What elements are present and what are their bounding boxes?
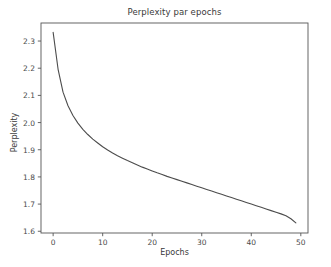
y-axis-ticks	[38, 41, 41, 231]
y-axis-label: Perplexity	[10, 103, 19, 163]
y-tick-label: 1.7	[0, 200, 35, 209]
x-tick-label: 20	[147, 238, 157, 247]
y-tick-label: 1.8	[0, 172, 35, 181]
x-tick-label: 30	[197, 238, 207, 247]
plot-background	[41, 23, 308, 233]
x-axis-ticks	[53, 233, 301, 236]
y-tick-label: 1.6	[0, 227, 35, 236]
x-axis-label: Epochs	[41, 248, 308, 257]
chart-figure: Perplexity par epochs 1.61.71.81.92.02.1…	[0, 0, 331, 267]
x-tick-label: 50	[296, 238, 306, 247]
x-tick-label: 10	[98, 238, 108, 247]
y-tick-label: 2.2	[0, 64, 35, 73]
y-tick-label: 2.3	[0, 37, 35, 46]
x-tick-label: 40	[246, 238, 256, 247]
y-tick-label: 2.1	[0, 91, 35, 100]
x-tick-label: 0	[51, 238, 56, 247]
plot-area	[0, 0, 331, 267]
